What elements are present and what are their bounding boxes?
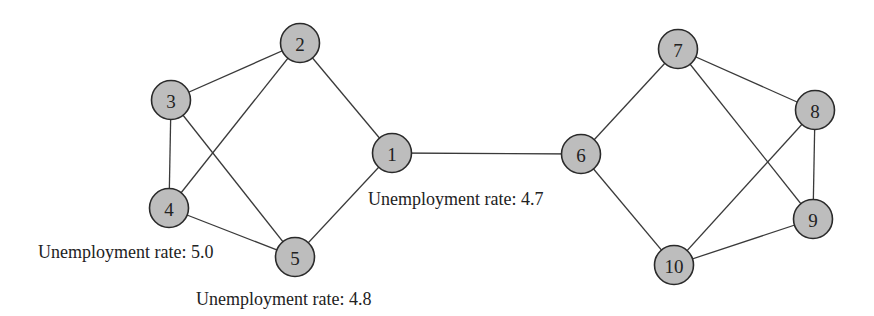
node-8: 8 <box>796 91 835 130</box>
node-5: 5 <box>276 238 315 277</box>
annotation-node-1: Unemployment rate: 4.7 <box>368 189 543 209</box>
edge-6-10 <box>581 154 674 265</box>
node-label: 6 <box>576 145 586 166</box>
node-1: 1 <box>373 134 412 173</box>
node-label: 3 <box>166 91 176 112</box>
node-label: 2 <box>295 34 305 55</box>
node-label: 10 <box>665 256 684 277</box>
node-2: 2 <box>281 24 320 63</box>
node-10: 10 <box>655 246 694 285</box>
node-3: 3 <box>152 81 191 120</box>
annotation-node-5: Unemployment rate: 4.8 <box>196 289 371 309</box>
edge-6-7 <box>581 49 678 154</box>
node-label: 9 <box>808 210 818 231</box>
node-label: 8 <box>810 101 820 122</box>
network-graph: 12345678910 Unemployment rate: 4.7 Unemp… <box>0 0 874 316</box>
edge-1-6 <box>392 153 581 154</box>
node-7: 7 <box>659 30 698 69</box>
edge-2-1 <box>300 43 392 153</box>
edge-2-3 <box>171 43 300 100</box>
annotation-node-4: Unemployment rate: 5.0 <box>38 242 213 262</box>
edge-7-8 <box>678 49 815 110</box>
node-label: 7 <box>673 40 683 61</box>
edges-layer <box>169 43 815 265</box>
node-6: 6 <box>562 135 601 174</box>
node-label: 4 <box>164 199 174 220</box>
node-label: 1 <box>387 144 397 165</box>
node-label: 5 <box>290 248 300 269</box>
node-9: 9 <box>794 200 833 239</box>
node-4: 4 <box>150 189 189 228</box>
edge-2-4 <box>169 43 300 208</box>
